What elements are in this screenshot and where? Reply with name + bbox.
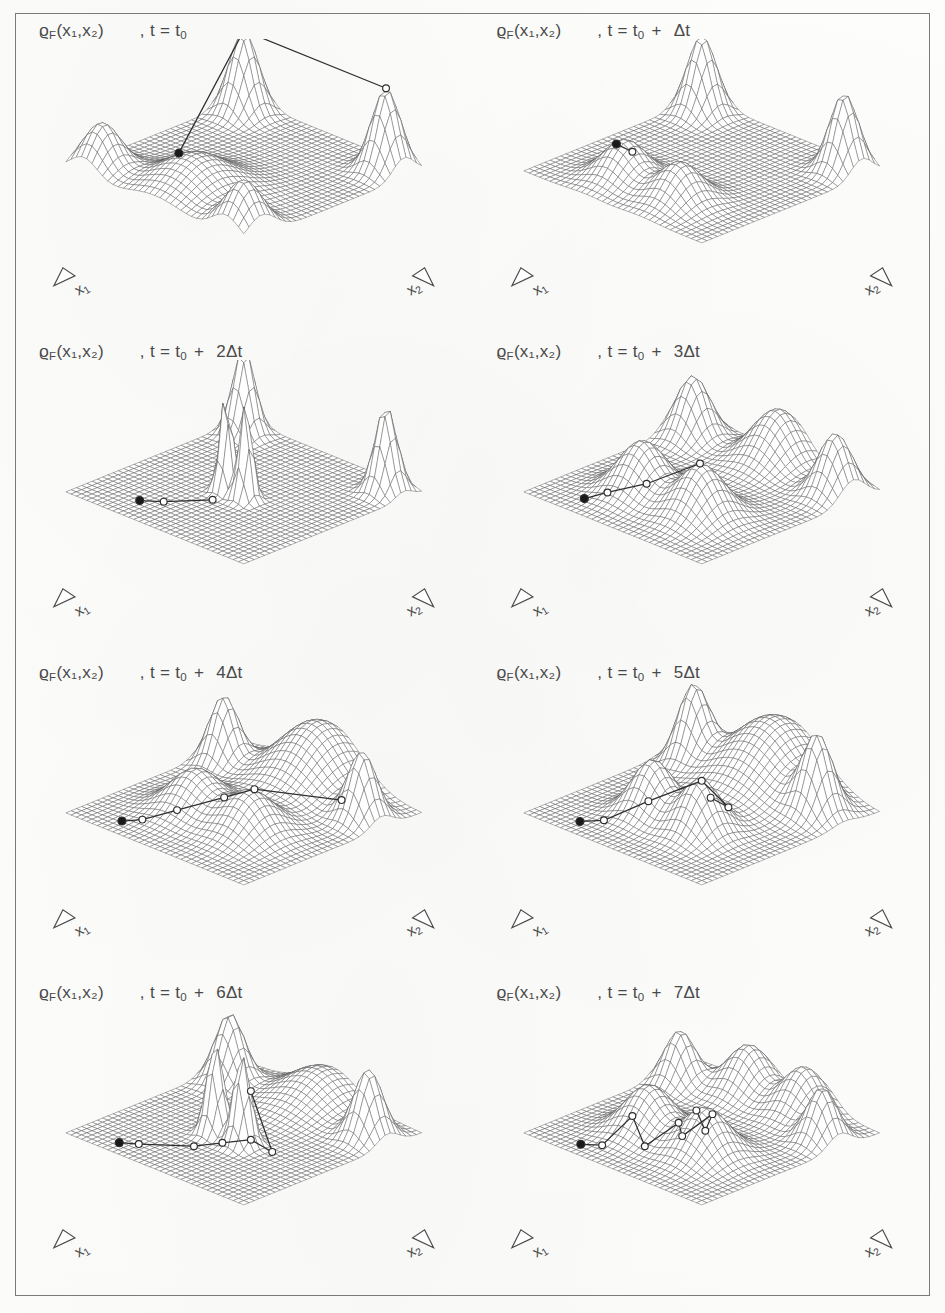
trajectory-start-marker — [136, 496, 144, 504]
trajectory-marker — [644, 797, 651, 804]
trajectory-start-marker — [576, 1141, 584, 1149]
surface-plot: x1x2 — [15, 39, 473, 334]
trajectory-marker — [641, 1143, 648, 1150]
trajectory-start-marker — [612, 140, 620, 148]
trajectory-marker — [247, 1088, 254, 1095]
trajectory-marker — [174, 806, 181, 813]
trajectory-marker — [598, 1142, 605, 1149]
trajectory-marker — [209, 496, 216, 503]
trajectory-marker — [269, 1149, 276, 1156]
surface-plot: x1x2 — [15, 681, 473, 976]
trajectory-marker — [701, 1128, 708, 1135]
panel-title-time: , t = t0+ 3Δt — [597, 342, 700, 361]
surface-plot: x1x2 — [15, 1001, 473, 1296]
trajectory-marker — [696, 460, 703, 467]
trajectory-marker — [383, 85, 390, 92]
surface-panel: ϱF(x₁,x₂), t = t0+ 2Δtx1x2 — [15, 334, 473, 655]
panel-title-time: , t = t0+ Δt — [597, 21, 690, 40]
surface-plot: x1x2 — [15, 360, 473, 655]
trajectory-marker — [135, 1141, 142, 1148]
trajectory-marker — [221, 794, 228, 801]
trajectory-marker — [139, 816, 146, 823]
surface-panel: ϱF(x₁,x₂), t = t0+ Δtx1x2 — [473, 13, 931, 334]
panel-title-symbol: ϱF(x₁,x₂) — [497, 983, 562, 1002]
panel-title-symbol: ϱF(x₁,x₂) — [39, 21, 104, 40]
trajectory-marker — [675, 1120, 682, 1127]
panel-title-symbol: ϱF(x₁,x₂) — [39, 983, 104, 1002]
panel-title: ϱF(x₁,x₂), t = t0+ 7Δt — [497, 983, 701, 1003]
trajectory-marker — [709, 1111, 716, 1118]
trajectory-marker — [725, 803, 732, 810]
trajectory-marker — [707, 794, 714, 801]
trajectory-start-marker — [118, 817, 126, 825]
surface-panel: ϱF(x₁,x₂), t = t0+ 7Δtx1x2 — [473, 975, 931, 1296]
trajectory-marker — [628, 148, 635, 155]
surface-panel: ϱF(x₁,x₂), t = t0+ 6Δtx1x2 — [15, 975, 473, 1296]
trajectory-start-marker — [175, 149, 183, 157]
panel-grid: ϱF(x₁,x₂), t = t0x1x2ϱF(x₁,x₂), t = t0+ … — [15, 13, 930, 1296]
panel-title-time: , t = t0+ 5Δt — [597, 663, 700, 682]
panel-title-time: , t = t0+ 2Δt — [140, 342, 243, 361]
panel-title-time: , t = t0+ 6Δt — [140, 983, 243, 1002]
panel-title: ϱF(x₁,x₂), t = t0+ 4Δt — [39, 663, 243, 683]
trajectory-marker — [600, 816, 607, 823]
surface-plot: x1x2 — [473, 681, 931, 976]
surface-plot: x1x2 — [473, 360, 931, 655]
surface-plot: x1x2 — [473, 39, 931, 334]
trajectory-marker — [219, 1140, 226, 1147]
panel-title: ϱF(x₁,x₂), t = t0+ Δt — [497, 21, 691, 41]
trajectory-marker — [698, 777, 705, 784]
surface-plot: x1x2 — [473, 1001, 931, 1296]
trajectory-marker — [604, 489, 611, 496]
trajectory-start-marker — [115, 1139, 123, 1147]
trajectory-marker — [160, 498, 167, 505]
panel-title-time: , t = t0 — [140, 21, 187, 40]
panel-title-symbol: ϱF(x₁,x₂) — [39, 342, 104, 361]
panel-title-symbol: ϱF(x₁,x₂) — [39, 663, 104, 682]
panel-title-time: , t = t0+ 7Δt — [597, 983, 700, 1002]
trajectory-marker — [251, 785, 258, 792]
trajectory-marker — [338, 796, 345, 803]
surface-panel: ϱF(x₁,x₂), t = t0+ 5Δtx1x2 — [473, 655, 931, 976]
panel-title: ϱF(x₁,x₂), t = t0+ 5Δt — [497, 663, 701, 683]
trajectory-marker — [643, 480, 650, 487]
panel-title-time: , t = t0+ 4Δt — [140, 663, 243, 682]
panel-title: ϱF(x₁,x₂), t = t0+ 3Δt — [497, 342, 701, 362]
surface-panel: ϱF(x₁,x₂), t = t0+ 4Δtx1x2 — [15, 655, 473, 976]
panel-title-symbol: ϱF(x₁,x₂) — [497, 342, 562, 361]
surface-panel: ϱF(x₁,x₂), t = t0x1x2 — [15, 13, 473, 334]
trajectory-marker — [628, 1113, 635, 1120]
panel-title-symbol: ϱF(x₁,x₂) — [497, 663, 562, 682]
panel-title: ϱF(x₁,x₂), t = t0+ 6Δt — [39, 983, 243, 1003]
trajectory-marker — [678, 1133, 685, 1140]
panel-title: ϱF(x₁,x₂), t = t0+ 2Δt — [39, 342, 243, 362]
trajectory-start-marker — [580, 494, 588, 502]
panel-title-symbol: ϱF(x₁,x₂) — [497, 21, 562, 40]
trajectory-marker — [693, 1107, 700, 1114]
surface-panel: ϱF(x₁,x₂), t = t0+ 3Δtx1x2 — [473, 334, 931, 655]
panel-title: ϱF(x₁,x₂), t = t0 — [39, 21, 187, 41]
trajectory-start-marker — [575, 817, 583, 825]
trajectory-marker — [247, 1137, 254, 1144]
trajectory-marker — [191, 1143, 198, 1150]
